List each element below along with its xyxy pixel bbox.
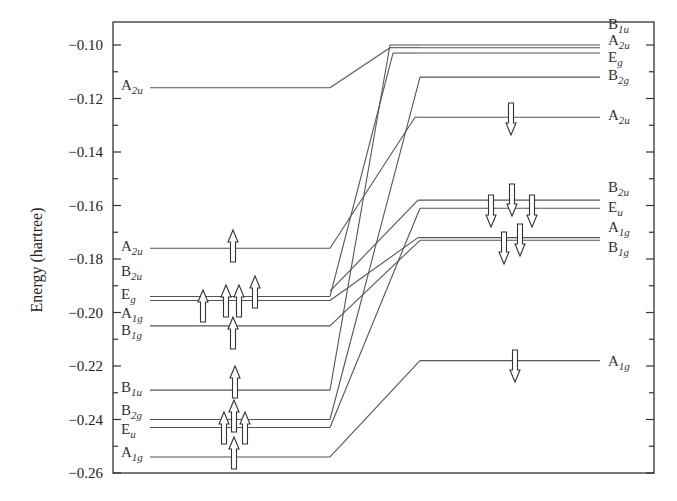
spin-up-arrow-icon [229,437,239,469]
spin-up-arrow-icon [230,366,240,398]
spin-up-arrow-icon [228,317,238,349]
symmetry-label: B1g [121,322,143,341]
symmetry-label: Eu [608,199,623,218]
symmetry-label: B2u [121,263,143,282]
symmetry-label: Eg [608,49,623,68]
symmetry-label: B2g [121,402,143,421]
spin-up-arrow-icon [250,276,260,308]
spin-down-arrow-icon [510,350,520,382]
symmetry-label: A1g [608,353,630,372]
y-tick-label: −0.20 [68,305,103,321]
symmetry-label: B2u [608,179,630,198]
y-tick-label: −0.16 [68,198,103,214]
symmetry-label: Eu [121,421,136,440]
spin-down-arrow-icon [506,103,516,135]
symmetry-label: B2g [608,67,630,86]
symmetry-label: A2u [608,107,630,126]
spin-up-arrow-icon [198,290,208,322]
correlation-lines [330,45,420,457]
y-tick-label: −0.14 [68,144,103,160]
symmetry-label: A1g [608,219,630,238]
y-tick-label: −0.26 [68,465,103,481]
symmetry-label: A1g [121,444,143,463]
symmetry-label: B1g [608,239,630,258]
symmetry-label: B1u [121,379,143,398]
y-tick-label: −0.18 [68,251,103,267]
symmetry-label: Eg [121,286,136,305]
y-tick-label: −0.10 [68,37,103,53]
symmetry-label: A2u [121,238,143,257]
spin-arrows [198,103,537,469]
y-tick-label: −0.24 [68,412,103,428]
symmetry-label: A2u [121,77,143,96]
symmetry-labels: A2uA2uB2uEgA1gB1gB1uB2gEuA1gB1uA2uEgB2gA… [121,16,630,463]
spin-down-arrow-icon [499,232,509,264]
y-axis-title: Energy (hartree) [28,208,46,313]
energy-levels [150,45,600,457]
spin-up-arrow-icon [228,230,238,262]
energy-level-diagram: −0.10−0.12−0.14−0.16−0.18−0.20−0.22−0.24… [0,0,677,501]
y-tick-label: −0.22 [68,358,103,374]
y-tick-label: −0.12 [68,91,103,107]
